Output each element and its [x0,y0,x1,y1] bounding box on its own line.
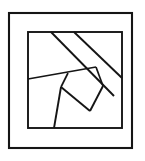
quilt-block-drawing [0,0,145,161]
quilt-block-figure [0,0,145,161]
